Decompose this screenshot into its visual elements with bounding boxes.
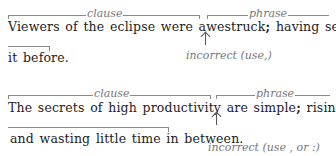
sentence-line-1: Viewers of the eclipse were awestruck; h… (8, 19, 336, 34)
phrase-text: rising and retiring early (307, 100, 336, 115)
clause-bracket-right-tick (210, 95, 211, 99)
semicolon-mark: ; (296, 100, 301, 115)
incorrect-note: incorrect (use,) (186, 49, 272, 62)
clause-bracket-left-tick (8, 95, 9, 99)
incorrect-note: incorrect (use , or :) (208, 141, 320, 154)
phrase-label: phrase (255, 87, 295, 100)
phrase-bracket-left-tick (216, 95, 217, 99)
sentence-line-2: it before. (8, 50, 69, 65)
clause-text: Viewers of the eclipse were awestruck (8, 19, 266, 34)
clause-label: clause (93, 87, 130, 100)
phrase-text: having seen nothing like (276, 19, 336, 34)
continuation-bracket-line (8, 127, 168, 128)
continuation-bracket-line (8, 46, 49, 47)
clause-text: The secrets of high productivity are sim… (8, 100, 296, 115)
sentence-line-1: The secrets of high productivity are sim… (8, 100, 336, 115)
semicolon-mark: ; (266, 19, 271, 34)
